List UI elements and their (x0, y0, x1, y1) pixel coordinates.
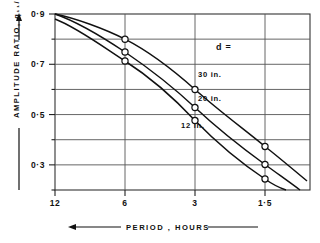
curve-label-20in: 20 in. (198, 94, 222, 103)
x-axis-title: PERIOD , HOURS (126, 223, 210, 232)
y-tick-label-0: 0·9 (31, 9, 45, 19)
marker-20in-x3 (192, 104, 198, 110)
x-tick-label-3: 1·5 (258, 198, 272, 208)
curve-label-12in: 12 in. (181, 121, 205, 130)
amplitude-ratio-vs-period-chart: 0·9 0·7 0·5 0·3 12 6 3 1·5 d = 30 in. 20… (0, 0, 320, 243)
marker-30in-x3 (192, 86, 198, 92)
y-tick-label-2: 0·5 (31, 110, 45, 120)
y-tick-label-1: 0·7 (31, 59, 45, 69)
marker-12in-x1.5 (262, 176, 268, 182)
curve-label-30in: 30 in. (198, 70, 222, 79)
marker-30in-x1.5 (262, 143, 268, 149)
marker-20in-x1.5 (262, 161, 268, 167)
x-tick-label-2: 3 (192, 198, 197, 208)
x-tick-label-0: 12 (50, 198, 61, 208)
d-equals-label: d = (216, 42, 232, 52)
marker-30in-x6 (122, 36, 128, 42)
x-tick-label-1: 6 (122, 198, 127, 208)
y-tick-label-3: 0·3 (31, 160, 45, 170)
chart-figure: 0·9 0·7 0·5 0·3 12 6 3 1·5 d = 30 in. 20… (0, 0, 320, 243)
marker-12in-x6 (122, 58, 128, 64)
marker-20in-x6 (122, 49, 128, 55)
